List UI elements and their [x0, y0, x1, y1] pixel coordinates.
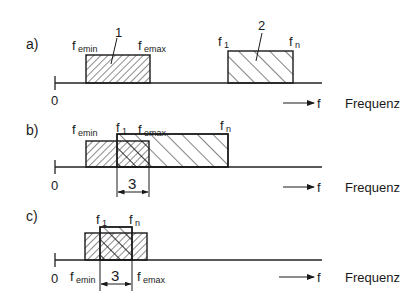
fn-subscript: n — [135, 218, 140, 228]
axis-label: Frequenz — [345, 96, 400, 111]
origin-label: 0 — [51, 178, 58, 193]
panel-c: c) 0 f 1 f n f emin f emax 3 f Frequenz — [26, 208, 400, 291]
panel-a: a) 0 1 f emin f emax 2 f 1 f n f Frequen… — [26, 18, 400, 111]
f1-label: f — [218, 34, 222, 49]
band-2-signal — [228, 51, 293, 83]
femax-subscript: emax — [144, 128, 167, 138]
fn-subscript: n — [295, 40, 300, 50]
f1-label: f — [116, 120, 120, 135]
femax-label: f — [137, 269, 141, 284]
f1-subscript: 1 — [224, 40, 229, 50]
f1-subscript: 1 — [122, 126, 127, 136]
femin-subscript: emin — [76, 275, 96, 285]
frequency-symbol: f — [317, 270, 321, 285]
band-1-number: 1 — [115, 25, 122, 40]
fn-subscript: n — [226, 124, 231, 134]
femin-label: f — [72, 38, 76, 53]
f1-subscript: 1 — [102, 218, 107, 228]
panel-label: b) — [26, 122, 38, 138]
axis-label: Frequenz — [345, 270, 400, 285]
overlap-region — [117, 141, 149, 167]
femax-subscript: emax — [144, 44, 167, 54]
femin-label: f — [70, 269, 74, 284]
frequency-band-diagram: a) 0 1 f emin f emax 2 f 1 f n f Frequen… — [0, 0, 418, 308]
band-2-number: 2 — [258, 18, 265, 33]
origin-label: 0 — [51, 93, 58, 108]
panel-label: c) — [26, 208, 38, 224]
fn-label: f — [129, 212, 133, 227]
frequency-symbol: f — [317, 180, 321, 195]
overlap-region — [100, 233, 132, 260]
frequency-symbol: f — [317, 96, 321, 111]
f1-label: f — [96, 212, 100, 227]
panel-label: a) — [26, 36, 38, 52]
panel-b: b) 0 f emin f 1 f emax f n 3 f Frequenz — [26, 118, 400, 197]
origin-label: 0 — [51, 271, 58, 286]
band-1-receiver — [86, 55, 150, 83]
femin-subscript: emin — [78, 128, 98, 138]
fn-label: f — [220, 118, 224, 133]
femin-label: f — [72, 122, 76, 137]
overlap-label: 3 — [111, 267, 119, 284]
femax-label: f — [138, 122, 142, 137]
axis-label: Frequenz — [345, 180, 400, 195]
femin-subscript: emin — [78, 44, 98, 54]
overlap-label: 3 — [128, 175, 136, 192]
femax-subscript: emax — [143, 275, 166, 285]
femax-label: f — [138, 38, 142, 53]
fn-label: f — [289, 34, 293, 49]
